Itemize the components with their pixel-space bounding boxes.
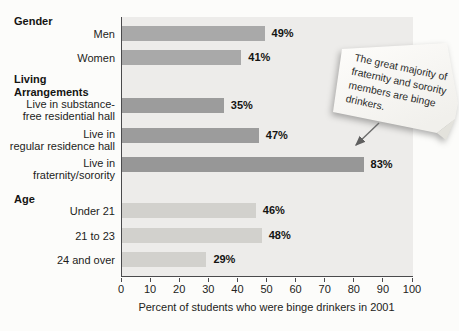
x-tick-90 bbox=[382, 278, 383, 282]
women-label-line: Women bbox=[0, 52, 115, 65]
substance-free-hall-label: Live in substance-free residential hall bbox=[0, 98, 115, 123]
substance-free-hall-bar bbox=[122, 98, 224, 113]
living-arrangements-section-header: LivingArrangements bbox=[14, 73, 89, 98]
x-tick-label-0: 0 bbox=[106, 283, 136, 295]
21-to-23-bar bbox=[122, 228, 262, 243]
24-and-over-label-line: 24 and over bbox=[0, 254, 115, 267]
under-21-bar bbox=[122, 203, 256, 218]
x-tick-10 bbox=[150, 278, 151, 282]
men-label-line: Men bbox=[0, 28, 115, 41]
regular-residence-hall-label-line: Live in bbox=[0, 128, 115, 141]
x-tick-label-60: 60 bbox=[281, 283, 311, 295]
24-and-over-value-label: 29% bbox=[213, 253, 235, 266]
x-tick-0 bbox=[121, 278, 122, 282]
substance-free-hall-label-line: free residential hall bbox=[0, 110, 115, 123]
men-bar bbox=[122, 26, 265, 41]
24-and-over-bar bbox=[122, 252, 206, 267]
x-tick-label-80: 80 bbox=[339, 283, 369, 295]
21-to-23-label-line: 21 to 23 bbox=[0, 230, 115, 243]
fraternity-sorority-label-line: Live in bbox=[0, 157, 115, 170]
men-label: Men bbox=[0, 28, 115, 41]
x-tick-80 bbox=[353, 278, 354, 282]
under-21-label-line: Under 21 bbox=[0, 205, 115, 218]
x-tick-30 bbox=[208, 278, 209, 282]
annotation-note: The great majority offraternity and soro… bbox=[333, 41, 459, 141]
gender-section-header-line: Gender bbox=[14, 15, 53, 28]
x-tick-label-90: 90 bbox=[368, 283, 398, 295]
21-to-23-label: 21 to 23 bbox=[0, 230, 115, 243]
x-tick-label-10: 10 bbox=[135, 283, 165, 295]
men-value-label: 49% bbox=[272, 27, 294, 40]
x-tick-70 bbox=[324, 278, 325, 282]
x-axis-title: Percent of students who were binge drink… bbox=[121, 301, 412, 313]
fraternity-sorority-label: Live infraternity/sorority bbox=[0, 157, 115, 182]
x-tick-label-70: 70 bbox=[310, 283, 340, 295]
living-arrangements-section-header-line: Arrangements bbox=[14, 86, 89, 99]
x-tick-label-100: 100 bbox=[397, 283, 427, 295]
regular-residence-hall-value-label: 47% bbox=[266, 129, 288, 142]
regular-residence-hall-label: Live inregular residence hall bbox=[0, 128, 115, 153]
living-arrangements-section-header-line: Living bbox=[14, 73, 89, 86]
fraternity-sorority-bar bbox=[122, 157, 364, 172]
x-tick-label-30: 30 bbox=[193, 283, 223, 295]
under-21-value-label: 46% bbox=[263, 204, 285, 217]
x-tick-100 bbox=[412, 278, 413, 282]
x-tick-label-40: 40 bbox=[222, 283, 252, 295]
women-bar bbox=[122, 50, 241, 65]
substance-free-hall-label-line: Live in substance- bbox=[0, 98, 115, 111]
substance-free-hall-value-label: 35% bbox=[231, 99, 253, 112]
regular-residence-hall-label-line: regular residence hall bbox=[0, 140, 115, 153]
fraternity-sorority-value-label: 83% bbox=[371, 158, 393, 171]
x-tick-label-50: 50 bbox=[252, 283, 282, 295]
x-tick-60 bbox=[295, 278, 296, 282]
x-tick-label-20: 20 bbox=[164, 283, 194, 295]
women-label: Women bbox=[0, 52, 115, 65]
gender-section-header: Gender bbox=[14, 15, 53, 28]
binge-drinking-bar-chart: 49%41%35%47%83%46%48%29% GenderMenWomenL… bbox=[0, 0, 459, 331]
x-tick-20 bbox=[179, 278, 180, 282]
x-tick-50 bbox=[266, 278, 267, 282]
fraternity-sorority-label-line: fraternity/sorority bbox=[0, 169, 115, 182]
x-tick-40 bbox=[237, 278, 238, 282]
regular-residence-hall-bar bbox=[122, 128, 259, 143]
under-21-label: Under 21 bbox=[0, 205, 115, 218]
24-and-over-label: 24 and over bbox=[0, 254, 115, 267]
21-to-23-value-label: 48% bbox=[269, 229, 291, 242]
women-value-label: 41% bbox=[248, 51, 270, 64]
